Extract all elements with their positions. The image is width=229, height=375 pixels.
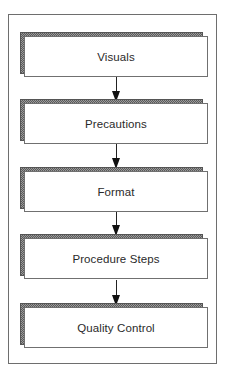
step-box: Visuals bbox=[24, 36, 208, 77]
step-precautions: Precautions bbox=[20, 99, 208, 144]
step-box: Quality Control bbox=[24, 307, 208, 348]
step-quality-control: Quality Control bbox=[20, 303, 208, 348]
step-label: Format bbox=[97, 186, 134, 198]
step-box: Procedure Steps bbox=[24, 238, 208, 279]
step-label: Procedure Steps bbox=[72, 253, 159, 265]
step-box: Precautions bbox=[24, 103, 208, 144]
step-procedure-steps: Procedure Steps bbox=[20, 234, 208, 279]
step-format: Format bbox=[20, 167, 208, 212]
step-label: Quality Control bbox=[77, 322, 155, 334]
arrow-down-icon bbox=[112, 144, 121, 169]
step-label: Precautions bbox=[85, 118, 147, 130]
step-box: Format bbox=[24, 171, 208, 212]
step-label: Visuals bbox=[97, 51, 135, 63]
step-visuals: Visuals bbox=[20, 32, 208, 77]
